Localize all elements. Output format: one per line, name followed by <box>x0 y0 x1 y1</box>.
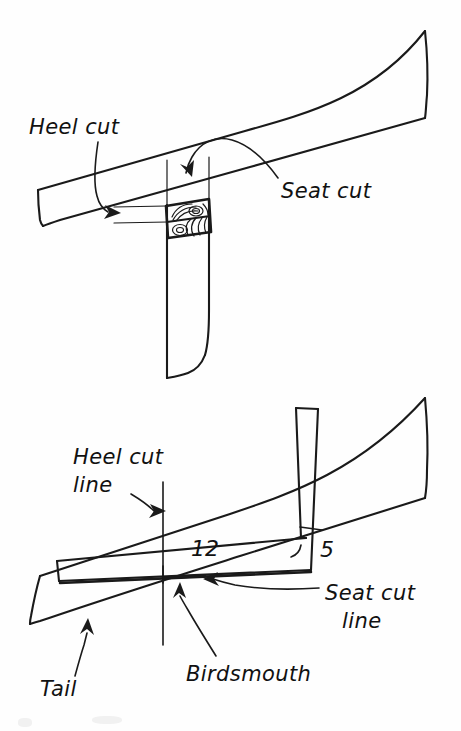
upper-reference-lines <box>114 206 167 223</box>
lower-heel-cut-label-line2: line <box>73 473 113 497</box>
lower-heel-cut-label-line1: Heel cut <box>73 445 164 469</box>
birdsmouth-annotation <box>173 582 216 656</box>
run-measurement-12: 12 <box>191 536 219 561</box>
figure-canvas: Heel cut Seat cut <box>0 0 461 731</box>
upper-birdsmouth-block <box>166 199 211 238</box>
lower-seat-cut-label-line2: line <box>342 609 382 633</box>
upper-heel-cut-label: Heel cut <box>29 115 120 139</box>
scan-artifact-left <box>18 718 32 727</box>
rise-measurement-5: 5 <box>320 537 334 562</box>
upper-panel: Heel cut Seat cut <box>29 31 427 378</box>
tail-annotation <box>75 618 94 676</box>
scan-artifact-right <box>92 716 122 724</box>
birdsmouth-label: Birdsmouth <box>186 662 311 686</box>
seat-cut-arrowhead <box>180 160 194 177</box>
lower-heel-cut-annotation <box>131 494 166 518</box>
upper-seat-cut-label: Seat cut <box>281 179 372 203</box>
lower-panel: Heel cut line Seat cut line Birdsmouth T… <box>30 398 427 701</box>
tail-label: Tail <box>40 677 77 701</box>
rise-tick <box>300 527 322 530</box>
rafter-birdsmouth-figure: Heel cut Seat cut <box>0 0 461 731</box>
lower-seat-cut-label-line1: Seat cut <box>325 581 416 605</box>
